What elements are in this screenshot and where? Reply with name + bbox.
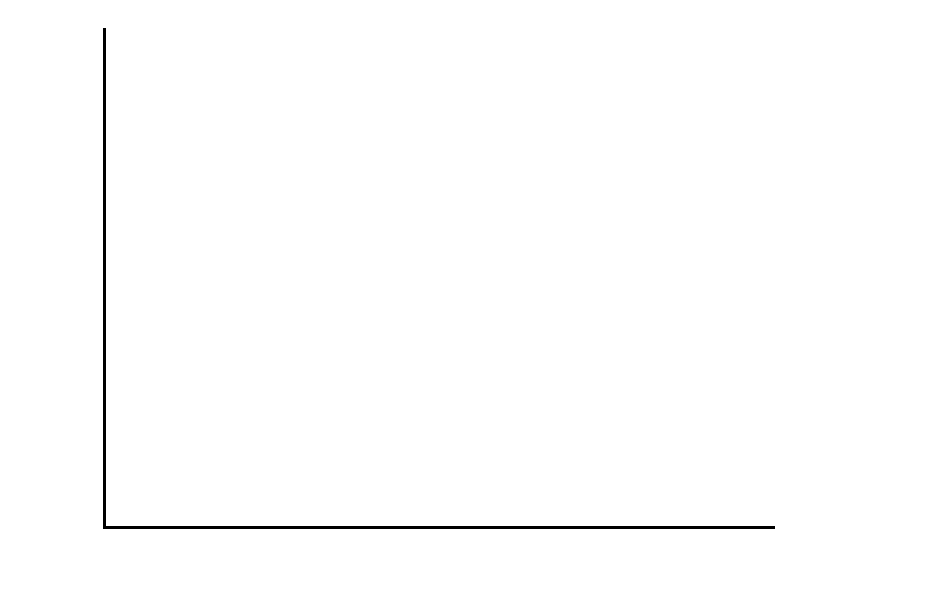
x-axis-line: [103, 526, 775, 529]
bar-chart: [0, 0, 951, 611]
y-axis-line: [103, 28, 106, 529]
